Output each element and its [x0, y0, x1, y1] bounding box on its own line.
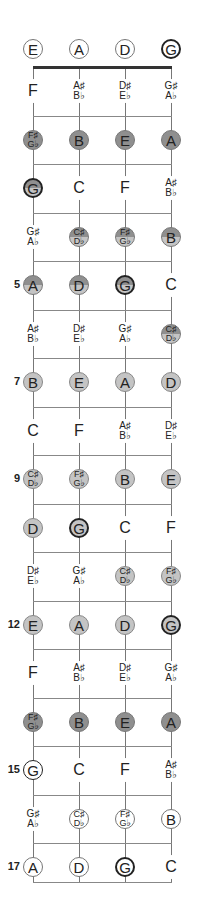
note-marker: D: [23, 518, 43, 538]
note-flat-label: E♭: [73, 334, 84, 344]
note-marker: A: [161, 712, 181, 732]
note-marker: G: [115, 275, 135, 295]
note-marker: A: [23, 275, 43, 295]
note-label: B: [166, 812, 176, 827]
note-label: A: [120, 375, 130, 390]
note-label: D: [74, 278, 85, 293]
fret-line: [33, 746, 172, 747]
note-flat-label: A♭: [27, 819, 38, 829]
note-marker: F: [113, 758, 137, 782]
fret-number: 5: [4, 278, 20, 290]
note-marker: B: [23, 372, 43, 392]
note-marker: F: [21, 661, 45, 685]
note-marker: D♯E♭: [113, 661, 137, 685]
note-label: C: [165, 277, 177, 293]
note-marker: A: [23, 857, 43, 877]
note-marker: C♯D♭: [23, 469, 43, 489]
note-label: B: [74, 133, 84, 148]
fret-number: 9: [4, 472, 20, 484]
note-flat-label: D♭: [166, 334, 177, 343]
nut-bar: [33, 66, 172, 69]
note-label: B: [120, 472, 130, 487]
note-marker: D♯E♭: [159, 419, 183, 443]
note-marker: E: [161, 469, 181, 489]
note-label: A: [28, 278, 38, 293]
note-marker: C: [159, 273, 183, 297]
note-marker: D♯E♭: [67, 322, 91, 346]
note-flat-label: D♭: [28, 479, 39, 488]
fret-line: [33, 213, 172, 214]
note-marker: G: [161, 615, 181, 635]
note-marker: G♯A♭: [21, 225, 45, 249]
note-marker: A: [69, 39, 89, 59]
note-marker: F: [21, 79, 45, 103]
note-marker: C: [21, 419, 45, 443]
note-marker: A♯B♭: [21, 322, 45, 346]
note-marker: G♯A♭: [159, 79, 183, 103]
note-marker: F♯G♭: [23, 130, 43, 150]
note-marker: G♯A♭: [113, 322, 137, 346]
note-marker: A♯B♭: [113, 419, 137, 443]
note-label: G: [165, 42, 177, 57]
note-marker: F: [159, 516, 183, 540]
note-marker: D: [115, 39, 135, 59]
note-marker: E: [115, 712, 135, 732]
note-label: F: [28, 665, 38, 681]
note-label: G: [119, 860, 131, 875]
fret-line: [33, 504, 172, 505]
note-label: C: [73, 762, 85, 778]
fret-line: [33, 843, 172, 844]
note-marker: F♯G♭: [115, 227, 135, 247]
note-marker: D: [69, 275, 89, 295]
note-marker: B: [69, 712, 89, 732]
note-flat-label: G♭: [27, 140, 38, 149]
note-label: D: [120, 42, 131, 57]
note-label: G: [73, 521, 85, 536]
note-flat-label: D♭: [74, 819, 85, 828]
fret-line: [33, 698, 172, 699]
note-marker: D♯E♭: [113, 79, 137, 103]
note-marker: E: [23, 615, 43, 635]
fretboard-diagram: EADGFA♯B♭D♯E♭G♯A♭F♯G♭BEAGCFA♯B♭G♯A♭C♯D♭F…: [0, 0, 200, 910]
note-flat-label: D♭: [120, 576, 131, 585]
note-marker: G: [161, 39, 181, 59]
fret-line: [33, 164, 172, 165]
note-marker: G♯A♭: [67, 564, 91, 588]
note-marker: F: [67, 419, 91, 443]
note-flat-label: A♭: [27, 237, 38, 247]
fret-line: [33, 882, 172, 883]
note-label: C: [73, 180, 85, 196]
note-flat-label: G♭: [27, 722, 38, 731]
note-marker: C♯D♭: [69, 809, 89, 829]
note-marker: D: [161, 372, 181, 392]
note-marker: F♯G♭: [23, 712, 43, 732]
note-label: A: [74, 618, 84, 633]
note-label: A: [74, 42, 84, 57]
note-flat-label: B♭: [119, 431, 130, 441]
note-marker: D: [69, 857, 89, 877]
note-marker: D♯E♭: [21, 564, 45, 588]
note-label: E: [28, 618, 38, 633]
note-marker: C♯D♭: [115, 566, 135, 586]
note-flat-label: E♭: [165, 431, 176, 441]
note-flat-label: G♭: [119, 819, 130, 828]
fret-line: [33, 649, 172, 650]
fret-number: 17: [4, 860, 20, 872]
note-label: D: [28, 521, 39, 536]
note-marker: A♯B♭: [159, 176, 183, 200]
note-marker: C: [159, 855, 183, 879]
note-label: E: [120, 133, 130, 148]
note-flat-label: B♭: [165, 188, 176, 198]
note-label: F: [28, 83, 38, 99]
note-marker: A: [69, 615, 89, 635]
note-flat-label: D♭: [74, 237, 85, 246]
note-flat-label: E♭: [119, 673, 130, 683]
fret-number: 7: [4, 375, 20, 387]
note-label: F: [74, 423, 84, 439]
note-marker: G: [23, 178, 43, 198]
fret-number: 12: [4, 618, 20, 630]
note-marker: G♯A♭: [159, 661, 183, 685]
note-marker: A♯B♭: [67, 661, 91, 685]
note-marker: B: [115, 469, 135, 489]
note-label: F: [120, 762, 130, 778]
